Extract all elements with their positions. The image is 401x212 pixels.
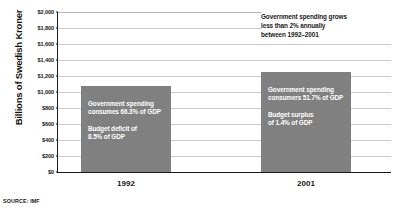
y-axis-tick-mark	[56, 44, 59, 45]
note-line: between 1992–2001	[261, 31, 391, 40]
annotation-line: Budget surplus	[268, 111, 346, 119]
y-axis-tick-label: $1,800	[37, 25, 54, 31]
y-axis-tick-mark	[56, 156, 59, 157]
y-axis-tick-label: $800	[42, 105, 54, 111]
y-axis-tick-mark	[56, 28, 59, 29]
x-axis-tick-label-2001: 2001	[261, 179, 351, 188]
y-axis-tick-mark	[56, 92, 59, 93]
bar-annotation-balance: Budget deficit of8.5% of GDP	[88, 125, 166, 142]
y-axis-tick-mark	[56, 172, 59, 173]
y-axis-tick-label: $1,400	[37, 57, 54, 63]
y-axis-tick-label: $2,000	[37, 9, 54, 15]
y-axis-tick-label: $1,200	[37, 73, 54, 79]
y-axis-tick-mark	[56, 60, 59, 61]
y-axis-tick-mark	[56, 140, 59, 141]
bar-2001: Government spendingconsumers 51.7% of GD…	[261, 72, 351, 172]
y-axis-tick-label: $0	[48, 169, 54, 175]
y-axis-tick-mark	[56, 12, 59, 13]
x-axis-tick-label-1992: 1992	[81, 179, 171, 188]
y-axis-tick-label: $1,600	[37, 41, 54, 47]
annotation-note: Government spending growsless than 2% an…	[261, 11, 393, 41]
y-axis-tick-mark	[56, 124, 59, 125]
annotation-line: consumes 66.3% of GDP	[88, 108, 166, 116]
annotation-line: of 1.4% of GDP	[268, 119, 346, 127]
bar-annotation-2001: Government spendingconsumers 51.7% of GD…	[268, 86, 346, 128]
y-axis-tick-label: $1,000	[37, 89, 54, 95]
bar-annotation-spending: Government spendingconsumers 51.7% of GD…	[268, 86, 346, 103]
bar-annotation-balance: Budget surplusof 1.4% of GDP	[268, 111, 346, 128]
y-axis-tick-label: $600	[42, 121, 54, 127]
annotation-line: Government spending	[268, 86, 346, 94]
bar-annotation-spending: Government spendingconsumes 66.3% of GDP	[88, 100, 166, 117]
note-line: Government spending grows	[261, 13, 391, 22]
y-axis-tick-mark	[56, 76, 59, 77]
annotation-line: Budget deficit of	[88, 125, 166, 133]
bar-1992: Government spendingconsumes 66.3% of GDP…	[81, 86, 171, 172]
source-label: SOURCE: IMF	[3, 198, 40, 204]
note-line: less than 2% annually	[261, 22, 391, 31]
annotation-line: Government spending	[88, 100, 166, 108]
gridline	[58, 44, 391, 45]
gridline	[58, 60, 391, 61]
y-axis-tick-mark	[56, 108, 59, 109]
annotation-line: 8.5% of GDP	[88, 133, 166, 141]
annotation-line: consumers 51.7% of GDP	[268, 94, 346, 102]
y-axis-tick-label: $200	[42, 153, 54, 159]
bar-annotation-1992: Government spendingconsumes 66.3% of GDP…	[88, 100, 166, 142]
chart-figure: Billions of Swedish Kroner $0$200$400$60…	[0, 0, 401, 212]
y-axis-tick-label: $400	[42, 137, 54, 143]
y-axis-title: Billions of Swedish Kroner	[13, 0, 24, 148]
